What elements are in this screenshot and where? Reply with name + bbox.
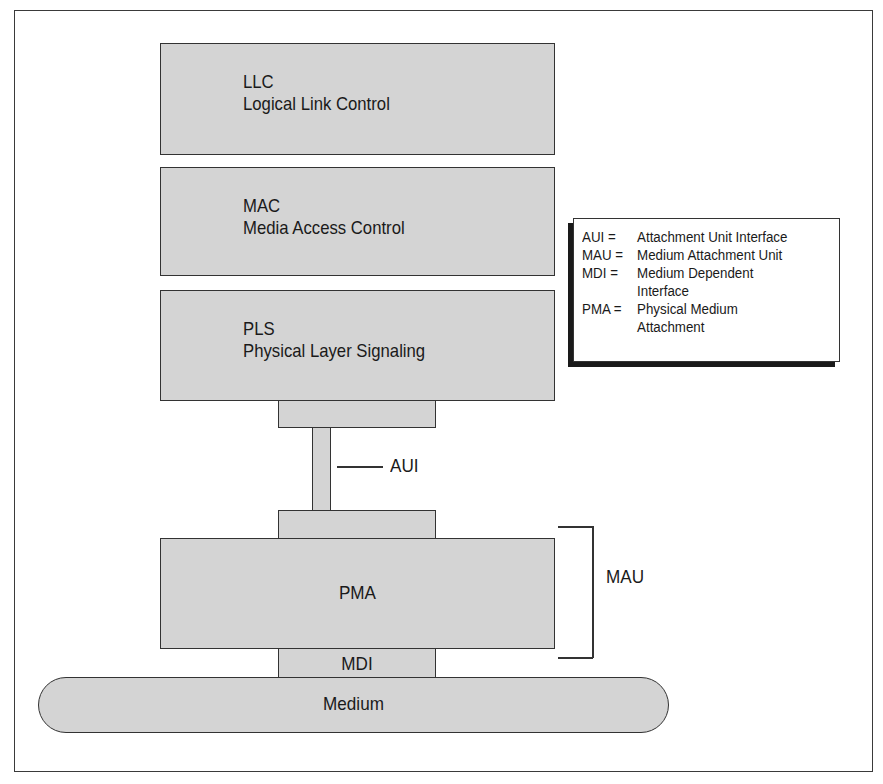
- mau-bracket-bottom: [558, 657, 593, 659]
- legend-row-aui: AUI =Attachment Unit Interface: [582, 228, 787, 246]
- legend-row-mau: MAU =Medium Attachment Unit: [582, 246, 782, 264]
- aui-label: AUI: [390, 455, 419, 477]
- medium-cable: Medium: [38, 677, 669, 733]
- pls-connector: [278, 400, 436, 428]
- medium-label: Medium: [70, 693, 636, 715]
- mau-connector: [278, 510, 436, 539]
- mdi-label: MDI: [287, 653, 427, 675]
- legend-row-mdi: MDI =Medium Dependent Interface: [582, 264, 753, 300]
- pls-layer-label: PLS Physical Layer Signaling: [243, 318, 425, 362]
- aui-pointer-line: [337, 466, 383, 468]
- mau-bracket-label: MAU: [606, 566, 644, 588]
- legend-row-pma: PMA =Physical Medium Attachment: [582, 300, 738, 336]
- mac-layer-box: MAC Media Access Control: [160, 167, 555, 276]
- pls-layer-box: PLS Physical Layer Signaling: [160, 290, 555, 401]
- mdi-box: MDI: [278, 648, 436, 678]
- mau-bracket-vertical: [592, 526, 594, 658]
- aui-cable: [312, 427, 331, 511]
- mac-layer-label: MAC Media Access Control: [243, 195, 405, 239]
- legend-box: AUI =Attachment Unit Interface MAU =Medi…: [573, 218, 840, 362]
- pma-box: PMA: [160, 538, 555, 649]
- pma-label: PMA: [181, 582, 535, 604]
- llc-layer-box: LLC Logical Link Control: [160, 43, 555, 155]
- llc-layer-label: LLC Logical Link Control: [243, 71, 390, 115]
- mau-bracket-top: [558, 526, 593, 528]
